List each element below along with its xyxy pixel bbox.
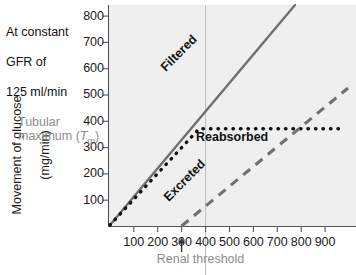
gfr-note-line-2: GFR of xyxy=(6,55,69,70)
y-axis-title-line-1: Movement of glucose xyxy=(10,80,24,230)
tm-prefix: maximum ( xyxy=(18,129,80,143)
tubular-maximum-label: Tubular maximum (Tm) xyxy=(18,115,104,148)
tm-suffix: ) xyxy=(95,129,99,143)
tubular-maximum-line-1: Tubular xyxy=(18,115,104,129)
tubular-maximum-line-2: maximum (Tm) xyxy=(18,129,104,148)
x-tick-900: 900 xyxy=(305,236,345,249)
y-axis-title: Movement of glucose (mg/min) xyxy=(0,80,66,230)
y-axis-title-line-2: (mg/min) xyxy=(38,80,52,230)
tm-subscript: m xyxy=(87,136,95,146)
series-label-reabsorbed: Reabsorbed xyxy=(196,131,268,144)
gfr-note-line-1: At constant xyxy=(6,25,69,40)
renal-threshold-label: Renal threshold xyxy=(128,253,273,266)
chart-figure: 800 700 600 500 400 300 200 100 100 200 … xyxy=(0,0,356,275)
